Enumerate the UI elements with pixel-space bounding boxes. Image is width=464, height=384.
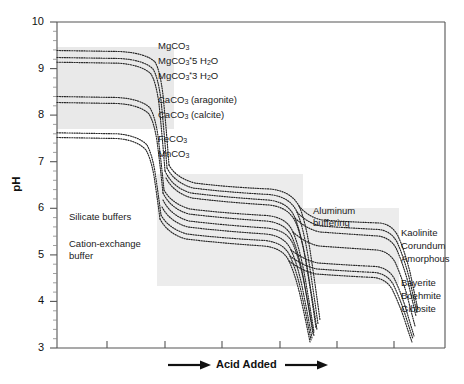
mgco3-5h2o-text: MgCO: [158, 55, 185, 66]
series-label-boehmite: Boehmite: [401, 290, 441, 302]
mgco3-3h2o-water: 3 H: [192, 70, 207, 81]
caco3-aragonite-text: CaCO: [158, 94, 184, 105]
x-axis-label: Acid Added: [216, 358, 277, 370]
series-label-caco3-aragonite: CaCO3 (aragonite): [158, 94, 237, 107]
y-tick-7: 7: [24, 155, 44, 167]
annotation-aluminum-line2: buffering: [313, 217, 350, 229]
y-tick-4: 4: [24, 294, 44, 306]
series-label-mgco3: MgCO3: [158, 40, 189, 53]
curve-mnco3: [57, 138, 160, 220]
feco3-sub: 3: [183, 137, 187, 144]
series-label-corundum: Corundum: [401, 240, 445, 252]
y-axis-minor-ticks: [53, 31, 57, 338]
caco3-calcite-paren: (calcite): [191, 109, 224, 120]
series-label-feco3: FeCO3: [158, 133, 187, 146]
y-tick-10: 10: [24, 15, 44, 27]
y-tick-5: 5: [24, 248, 44, 260]
annotation-cation-exchange-line1: Cation-exchange: [69, 238, 141, 250]
series-label-mgco3-3h2o: MgCO3*3 H2O: [158, 70, 218, 83]
series-label-amorphous: Amorphous: [401, 253, 450, 265]
mgco3-3h2o-text: MgCO: [158, 70, 185, 81]
ph-buffering-chart: 10 9 8 7 6 5 4 3 pH Acid Added MgCO3 MgC…: [0, 0, 464, 384]
water-o-a: O: [211, 55, 218, 66]
y-axis-label: pH: [10, 167, 22, 201]
annotation-cation-exchange-line2: buffer: [69, 250, 93, 262]
caco3-calcite-text: CaCO: [158, 109, 184, 120]
y-tick-3: 3: [24, 341, 44, 353]
caco3-aragonite-paren: (aragonite): [191, 94, 237, 105]
series-label-kaolinite: Kaolinite: [401, 227, 437, 239]
water-o-b: O: [211, 70, 218, 81]
annotation-aluminum-line1: Aluminum: [313, 205, 355, 217]
series-label-mgco3-5h2o: MgCO3*5 H2O: [158, 55, 218, 68]
feco3-text: FeCO: [158, 133, 183, 144]
series-label-gibbsite: Gibbsite: [401, 303, 436, 315]
mnco3-sub: 3: [185, 152, 189, 159]
y-tick-8: 8: [24, 108, 44, 120]
mgco3-text: MgCO: [158, 40, 185, 51]
y-axis-major-ticks: [50, 22, 57, 348]
y-tick-9: 9: [24, 62, 44, 74]
series-label-bayerite: Bayerite: [401, 277, 436, 289]
mgco3-sub: 3: [185, 44, 189, 51]
mnco3-text: MnCO: [158, 148, 185, 159]
series-label-caco3-calcite: CaCO3 (calcite): [158, 109, 224, 122]
mgco3-5h2o-water: 5 H: [192, 55, 207, 66]
annotation-silicate-buffers: Silicate buffers: [69, 211, 131, 223]
caco3-calcite-sub: 3: [184, 113, 188, 120]
series-label-mnco3: MnCO3: [158, 148, 189, 161]
x-axis-ticks: [107, 341, 394, 348]
y-tick-6: 6: [24, 201, 44, 213]
curve-feco3: [57, 133, 161, 215]
chart-canvas: [0, 0, 464, 384]
caco3-aragonite-sub: 3: [184, 98, 188, 105]
